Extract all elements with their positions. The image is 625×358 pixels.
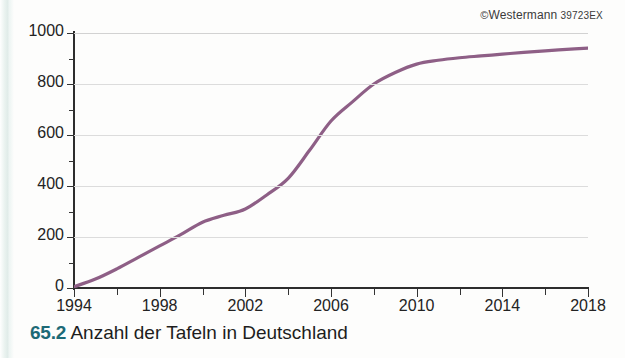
y-tick-200 bbox=[67, 237, 74, 238]
figure-caption: 65.2 Anzahl der Tafeln in Deutschland bbox=[30, 322, 348, 344]
y-tick-minor-500 bbox=[69, 161, 74, 162]
line-chart-svg bbox=[74, 33, 588, 288]
y-tick-600 bbox=[67, 135, 74, 136]
x-tick-minor-2004 bbox=[288, 289, 289, 295]
x-tick-minor-2016 bbox=[545, 289, 546, 295]
x-tick-label-2006: 2006 bbox=[313, 297, 349, 315]
y-tick-label-400: 400 bbox=[0, 175, 64, 193]
y-tick-1000 bbox=[67, 33, 74, 34]
gridline-y-1000 bbox=[74, 33, 588, 34]
y-tick-minor-900 bbox=[69, 59, 74, 60]
publisher-code: 39723EX bbox=[560, 10, 603, 21]
y-tick-label-200: 200 bbox=[0, 226, 64, 244]
gridline-y-200 bbox=[74, 237, 588, 238]
x-tick-minor-2012 bbox=[460, 289, 461, 295]
x-tick-label-2010: 2010 bbox=[399, 297, 435, 315]
x-tick-2010 bbox=[417, 289, 418, 297]
y-tick-label-0: 0 bbox=[0, 277, 64, 295]
x-tick-minor-1996 bbox=[117, 289, 118, 295]
gridline-y-600 bbox=[74, 135, 588, 136]
caption-number: 65.2 bbox=[30, 322, 66, 343]
x-tick-1994 bbox=[74, 289, 75, 297]
plot-area bbox=[74, 33, 588, 288]
x-tick-1998 bbox=[160, 289, 161, 297]
gridline-y-800 bbox=[74, 84, 588, 85]
y-tick-minor-100 bbox=[69, 263, 74, 264]
y-tick-label-1000: 1000 bbox=[0, 22, 64, 40]
y-tick-minor-300 bbox=[69, 212, 74, 213]
x-tick-label-2014: 2014 bbox=[485, 297, 521, 315]
y-tick-minor-700 bbox=[69, 110, 74, 111]
x-tick-label-2002: 2002 bbox=[228, 297, 264, 315]
y-tick-800 bbox=[67, 84, 74, 85]
x-tick-2018 bbox=[588, 289, 589, 297]
x-tick-2002 bbox=[245, 289, 246, 297]
caption-text: Anzahl der Tafeln in Deutschland bbox=[70, 322, 347, 343]
x-tick-label-1994: 1994 bbox=[56, 297, 92, 315]
y-tick-label-800: 800 bbox=[0, 73, 64, 91]
x-tick-minor-2008 bbox=[374, 289, 375, 295]
x-tick-label-1998: 1998 bbox=[142, 297, 178, 315]
x-tick-2006 bbox=[331, 289, 332, 297]
x-tick-label-2018: 2018 bbox=[570, 297, 606, 315]
figure-container: ©Westermann 39723EX 02004006008001000 19… bbox=[0, 0, 625, 358]
y-tick-0 bbox=[67, 288, 74, 289]
y-tick-400 bbox=[67, 186, 74, 187]
publisher-name: Westermann bbox=[488, 8, 557, 22]
x-tick-2014 bbox=[502, 289, 503, 297]
y-tick-label-600: 600 bbox=[0, 124, 64, 142]
copyright-notice: ©Westermann 39723EX bbox=[480, 8, 603, 22]
gridline-y-400 bbox=[74, 186, 588, 187]
x-tick-minor-2000 bbox=[203, 289, 204, 295]
